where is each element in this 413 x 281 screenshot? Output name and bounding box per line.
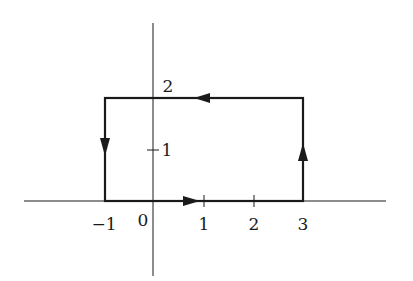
x-label-3: 3 xyxy=(298,214,309,234)
contour-rectangle xyxy=(105,98,303,201)
arrow-up-icon xyxy=(298,143,308,161)
arrow-right-icon xyxy=(183,196,200,206)
arrow-left-icon xyxy=(194,93,210,103)
contour-diagram: −1 0 1 2 3 1 2 xyxy=(0,0,413,281)
x-label-2: 2 xyxy=(249,214,260,234)
x-label-neg1: −1 xyxy=(91,214,116,234)
arrow-down-icon xyxy=(100,138,110,156)
y-label-1: 1 xyxy=(162,140,173,160)
y-label-2: 2 xyxy=(163,76,174,96)
x-label-0: 0 xyxy=(138,210,149,230)
x-label-1: 1 xyxy=(199,214,210,234)
